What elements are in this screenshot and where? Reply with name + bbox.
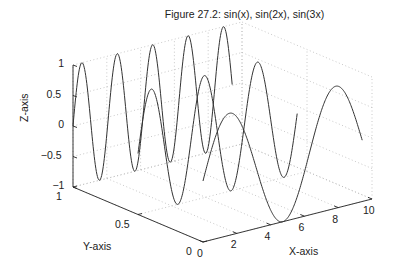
x-tick-label: 0 xyxy=(197,247,203,259)
x-tick-label: 2 xyxy=(231,238,237,250)
y-tick-label: 0.5 xyxy=(115,218,130,230)
x-tick-label: 10 xyxy=(363,204,375,216)
z-tick-label: −0.5 xyxy=(41,149,62,161)
chart-title: Figure 27.2: sin(x), sin(2x), sin(3x) xyxy=(0,8,415,20)
x-tick-label: 4 xyxy=(265,230,271,242)
x-tick-label: 6 xyxy=(298,221,304,233)
y-tick-label: 0 xyxy=(186,245,192,257)
chart-3d-plot xyxy=(0,0,415,270)
series-sinx xyxy=(203,86,362,222)
z-tick-label: 1 xyxy=(58,57,64,69)
z-tick-label: 0 xyxy=(58,118,64,130)
x-axis-label: X-axis xyxy=(289,245,318,257)
y-axis-label: Y-axis xyxy=(83,240,111,252)
gridlines xyxy=(73,22,372,242)
axes xyxy=(73,65,372,242)
y-tick-label: 1 xyxy=(56,190,62,202)
x-tick-label: 8 xyxy=(332,213,338,225)
series-sin2x xyxy=(138,62,297,204)
data-series xyxy=(73,27,362,222)
z-axis-label: Z-axis xyxy=(18,93,30,122)
z-tick-label: 0.5 xyxy=(47,88,62,100)
